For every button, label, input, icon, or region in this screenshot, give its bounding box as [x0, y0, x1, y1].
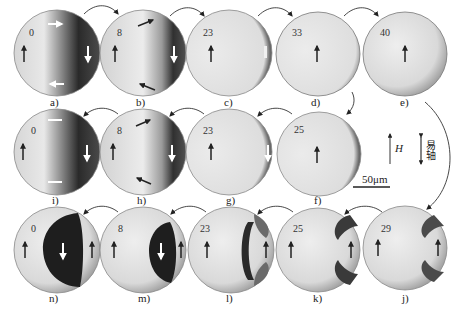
panel-label: e) — [400, 96, 409, 109]
panel-label: l) — [226, 292, 233, 305]
field-value: 23 — [200, 223, 210, 234]
field-value: 23 — [203, 125, 213, 136]
panel-label: f) — [314, 194, 322, 207]
panel-i: 0 i) — [14, 109, 100, 207]
panel-k: 25 k) — [276, 208, 360, 305]
sequence-arrow-b-c — [170, 8, 204, 16]
panel-label: k) — [313, 292, 323, 305]
panel-label: j) — [401, 292, 409, 305]
panel-g: 23 g) — [186, 109, 272, 207]
panel-n: 0 n) — [14, 207, 100, 305]
panel-h: 8 h) — [100, 109, 186, 207]
panel-label: g) — [226, 194, 236, 207]
wall-highlight — [264, 46, 267, 58]
panel-label: i) — [52, 194, 59, 207]
field-value: 29 — [381, 223, 391, 234]
field-value: 0 — [29, 27, 34, 38]
field-value: 25 — [294, 124, 304, 135]
figure-canvas: 0 a) 8 b) 23 c) 33 d) 40 e) — [0, 0, 460, 318]
panel-a: 0 a) — [14, 10, 100, 109]
panel-j: 29 j) — [363, 206, 447, 305]
sequence-arrow-j-k — [345, 206, 382, 214]
sequence-arrow-d-f — [347, 92, 354, 114]
sequence-arrow-m-n — [84, 206, 118, 214]
easy-axis-label: 易轴 — [425, 140, 436, 161]
panel-l: 23 l) — [188, 207, 274, 305]
panel-label: b) — [136, 96, 146, 109]
field-value: 8 — [117, 125, 122, 136]
sequence-arrow-a-b — [84, 6, 118, 14]
sequence-arrow-c-d — [258, 8, 292, 16]
domain-image — [186, 109, 272, 195]
panel-m: 8 m) — [100, 207, 186, 305]
sequence-arrow-g-h — [170, 108, 204, 116]
panel-e: 40 e) — [363, 12, 447, 109]
panel-d: 33 d) — [276, 12, 360, 109]
sequence-arrow-d-e — [344, 8, 378, 16]
panel-label: d) — [311, 96, 321, 109]
panel-c: 23 c) — [186, 10, 272, 109]
panel-label: c) — [224, 96, 233, 109]
scale-bar-label: 50μm — [362, 173, 388, 185]
field-value: 33 — [292, 27, 302, 38]
field-value: 25 — [293, 223, 303, 234]
panel-b: 8 b) — [100, 10, 186, 109]
field-value: 23 — [203, 27, 213, 38]
panel-label: h) — [137, 194, 147, 207]
field-label: H — [394, 142, 404, 154]
panel-f: 25 f) — [277, 112, 361, 207]
domain-image — [276, 12, 360, 96]
panel-label: n) — [49, 292, 59, 305]
sequence-arrow-k-l — [258, 206, 293, 214]
sequence-arrow-f-g — [258, 108, 292, 116]
field-value: 8 — [118, 223, 123, 234]
legend: H 易轴 50μm — [353, 134, 436, 187]
field-value: 8 — [117, 27, 122, 38]
field-value: 40 — [380, 27, 390, 38]
domain-image — [186, 10, 272, 96]
sequence-arrow-h-i — [84, 108, 118, 116]
field-value: 0 — [31, 223, 36, 234]
field-value: 0 — [31, 125, 36, 136]
sequence-arrow-l-m — [171, 206, 206, 214]
domain-image — [277, 112, 361, 196]
panel-label: m) — [138, 292, 151, 305]
panel-label: a) — [50, 96, 59, 109]
